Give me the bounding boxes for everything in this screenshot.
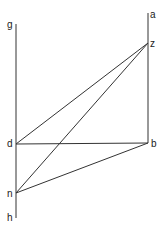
line-n-b	[16, 143, 148, 193]
label-h: h	[7, 213, 13, 223]
line-d-z	[16, 43, 148, 144]
label-n: n	[7, 189, 13, 199]
line-n-z	[16, 43, 148, 193]
line-d-b	[16, 143, 148, 144]
label-d: d	[7, 139, 13, 149]
label-g: g	[7, 20, 13, 30]
geometry-diagram	[0, 0, 164, 233]
label-z: z	[150, 39, 155, 49]
label-b: b	[151, 139, 157, 149]
label-a: a	[150, 10, 156, 20]
